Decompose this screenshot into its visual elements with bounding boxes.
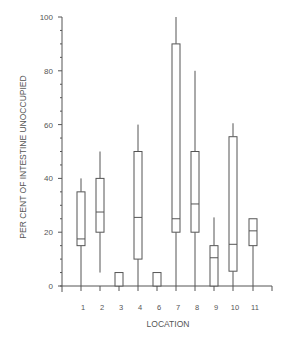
x-tick-label: 4 (138, 303, 142, 312)
iqr-box (191, 152, 199, 233)
y-tick-label: 60 (44, 121, 53, 130)
box-location-2 (96, 152, 104, 273)
x-axis-label: LOCATION (147, 319, 190, 329)
y-tick-label: 0 (49, 282, 54, 291)
x-axis: 123467891011 (60, 286, 272, 312)
x-tick-label: 8 (195, 303, 199, 312)
y-tick-label: 100 (40, 13, 54, 22)
iqr-box (96, 178, 104, 232)
iqr-box (172, 44, 180, 232)
iqr-box (249, 219, 257, 246)
x-tick-label: 11 (251, 303, 259, 312)
iqr-box (210, 246, 218, 286)
y-axis: 020406080100 (40, 13, 62, 292)
x-tick-label: 10 (231, 303, 239, 312)
box-series (77, 17, 257, 286)
iqr-box (77, 192, 85, 246)
box-location-11 (249, 219, 257, 286)
box-location-10 (229, 123, 237, 286)
box-location-1 (77, 178, 85, 286)
box-location-7 (172, 17, 180, 286)
box-location-9 (210, 217, 218, 286)
x-tick-label: 7 (176, 303, 180, 312)
boxplot-chart: 020406080100 123467891011 PER CENT OF IN… (0, 0, 285, 342)
y-tick-label: 40 (44, 174, 53, 183)
x-tick-label: 9 (214, 303, 218, 312)
y-axis-label: PER CENT OF INTESTINE UNOCCUPIED (18, 75, 28, 238)
y-tick-label: 20 (44, 228, 53, 237)
x-tick-label: 6 (157, 303, 161, 312)
x-tick-label: 3 (119, 303, 123, 312)
box-location-6 (153, 273, 161, 286)
box-location-4 (134, 125, 142, 286)
x-tick-label: 1 (81, 303, 85, 312)
iqr-box (115, 273, 123, 286)
y-tick-label: 80 (44, 67, 53, 76)
iqr-box (153, 273, 161, 286)
iqr-box (134, 152, 142, 260)
x-tick-label: 2 (100, 303, 104, 312)
box-location-3 (115, 273, 123, 286)
iqr-box (229, 137, 237, 272)
box-location-8 (191, 71, 199, 286)
